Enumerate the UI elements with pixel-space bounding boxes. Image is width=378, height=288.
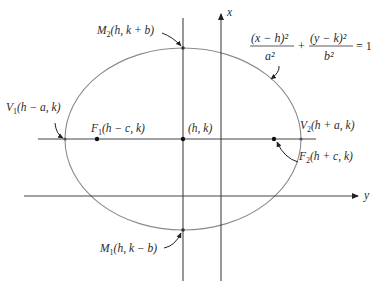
center-point <box>181 137 185 141</box>
minor-vertex-m2-point <box>181 46 185 50</box>
svg-text:a²: a² <box>265 49 275 63</box>
v1-pointer-arrow <box>55 123 63 138</box>
svg-text:+: + <box>298 39 305 53</box>
label-f2: F2(h + c, k) <box>298 150 353 165</box>
label-center: (h, k) <box>188 122 212 135</box>
focus-f2-point <box>272 137 276 141</box>
f2-pointer-arrow <box>277 142 298 162</box>
label-f1: F1(h − c, k) <box>90 122 145 137</box>
minor-vertex-m1-point <box>181 228 185 232</box>
svg-text:b²: b² <box>324 49 334 63</box>
svg-text:(x − h)²: (x − h)² <box>251 31 288 45</box>
equation-pointer-arrow <box>271 66 279 79</box>
label-v2: V2(h + a, k) <box>300 119 355 134</box>
vertex-v1-point <box>63 137 66 140</box>
label-m2: M2(h, k + b) <box>96 24 154 39</box>
m2-pointer-arrow <box>162 33 181 46</box>
svg-text:(y − k)²: (y − k)² <box>310 31 347 45</box>
focus-f1-point <box>95 137 99 141</box>
label-v1: V1(h − a, k) <box>6 101 61 116</box>
vertex-v2-point <box>299 137 302 140</box>
y-axis-label: y <box>363 189 370 202</box>
ellipse-equation: (x − h)² a² + (y − k)² b² = 1 <box>250 31 372 63</box>
svg-text:= 1: = 1 <box>356 39 372 53</box>
m1-pointer-arrow <box>164 233 181 248</box>
ellipse-diagram: x y M2(h, k + b) V1(h − a, k) F1(h − c, … <box>0 0 378 288</box>
x-axis-label: x <box>226 6 233 18</box>
label-m1: M1(h, k − b) <box>99 242 157 257</box>
